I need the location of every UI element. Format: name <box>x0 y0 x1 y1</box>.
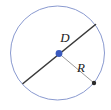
radius-label: R <box>76 60 85 75</box>
geometry-canvas: D R <box>0 0 111 110</box>
diameter-label: D <box>59 30 70 45</box>
radius-endpoint-dot <box>92 81 96 85</box>
circle-center-point <box>56 50 63 57</box>
circle-geometry-figure: D R <box>0 0 111 110</box>
